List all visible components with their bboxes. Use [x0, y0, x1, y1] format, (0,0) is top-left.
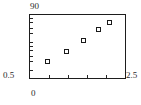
- x-axis-tick: [49, 75, 50, 78]
- data-point: [45, 59, 50, 64]
- x-axis-max-label: 2.5: [126, 70, 137, 80]
- y-axis-tick: [30, 56, 33, 57]
- data-point: [96, 27, 101, 32]
- x-axis-min-label: 0: [31, 88, 36, 98]
- x-axis-tick: [68, 75, 69, 78]
- y-axis-tick: [30, 18, 33, 19]
- scatter-chart: 90 0.5 0 2.5: [0, 0, 141, 105]
- y-axis-tick: [30, 70, 33, 71]
- plot-area: [30, 15, 125, 78]
- y-axis-tick: [30, 33, 33, 34]
- data-point: [107, 20, 112, 25]
- y-axis-tick: [30, 42, 33, 43]
- plot-frame: [29, 14, 126, 79]
- data-point: [81, 38, 86, 43]
- y-axis-tick: [30, 46, 33, 47]
- y-axis-min-label: 0.5: [3, 70, 14, 80]
- y-axis-tick: [30, 61, 33, 62]
- data-point: [64, 49, 69, 54]
- y-axis-tick: [30, 28, 33, 29]
- y-axis-tick: [30, 22, 33, 23]
- y-axis-tick: [30, 50, 33, 51]
- y-axis-max-label: 90: [30, 1, 39, 11]
- x-axis-tick: [87, 75, 88, 78]
- x-axis-tick: [106, 75, 107, 78]
